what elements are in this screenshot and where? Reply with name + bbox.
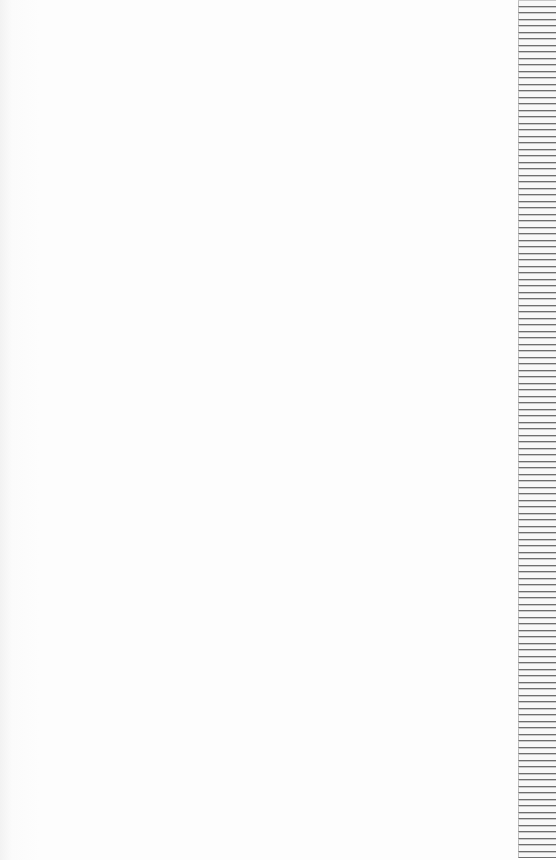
blank-page-canvas [0,0,518,860]
strip-row [518,852,556,859]
striped-side-strip[interactable] [518,0,556,860]
